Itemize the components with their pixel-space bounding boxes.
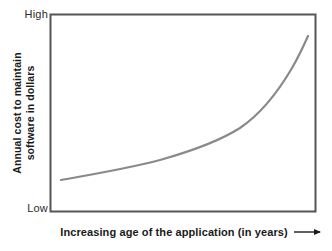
right-arrow-icon bbox=[294, 227, 328, 237]
series-line-annual-maintenance-cost bbox=[61, 36, 308, 180]
x-axis-label-text: Increasing age of the application (in ye… bbox=[60, 226, 288, 238]
axis-frame bbox=[51, 15, 316, 212]
y-axis-tick-high: High bbox=[25, 8, 48, 20]
plot-area bbox=[0, 0, 332, 251]
y-axis-tick-low: Low bbox=[27, 202, 48, 214]
chart-figure: High Low Annual cost to maintain softwar… bbox=[0, 0, 332, 251]
x-axis-label: Increasing age of the application (in ye… bbox=[60, 226, 328, 238]
